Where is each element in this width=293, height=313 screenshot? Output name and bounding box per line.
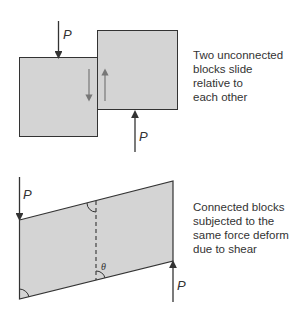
left-block: [20, 58, 98, 137]
bottom-force-label-2: P: [177, 278, 186, 293]
shear-diagram: P P θ P P: [0, 0, 293, 313]
top-caption: Two unconnected blocks slide relative to…: [193, 48, 283, 104]
bottom-caption: Connected blocks subjected to the same f…: [193, 200, 289, 256]
bottom-force-label: P: [139, 129, 148, 144]
top-force-label: P: [63, 27, 72, 42]
connected-blocks: θ P P: [20, 177, 187, 302]
unconnected-blocks: P P: [20, 21, 178, 152]
theta-label: θ: [101, 261, 106, 272]
top-force-label-2: P: [23, 187, 32, 202]
right-block: [98, 31, 178, 110]
